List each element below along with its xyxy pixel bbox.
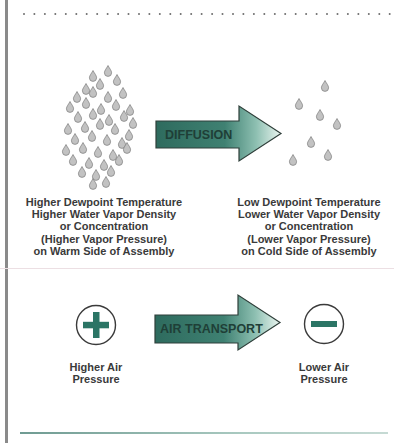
caption-line: Pressure xyxy=(56,373,136,385)
lower-air-pressure-caption: Lower Air Pressure xyxy=(284,361,364,385)
higher-air-pressure-caption: Higher Air Pressure xyxy=(56,361,136,385)
bottom-rule xyxy=(20,432,388,434)
caption-line: Pressure xyxy=(284,373,364,385)
caption-line: Lower Air xyxy=(284,361,364,373)
caption-line: Higher Air xyxy=(56,361,136,373)
